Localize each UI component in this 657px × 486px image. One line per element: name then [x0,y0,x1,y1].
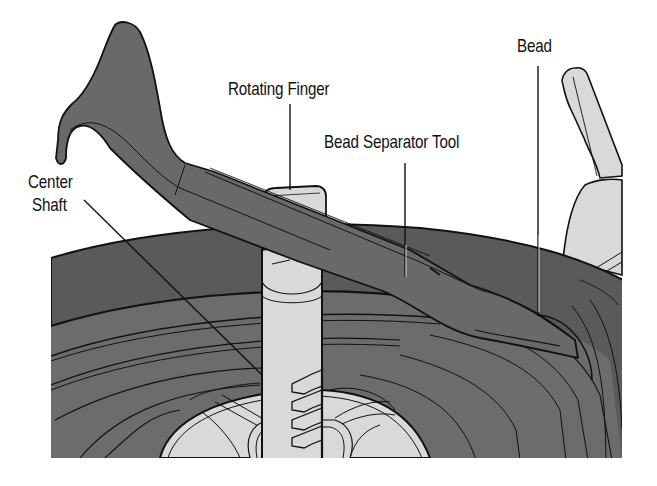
label-center-shaft-line2: Shaft [28,193,73,216]
label-bead: Bead [517,35,552,57]
label-bead-separator-tool: Bead Separator Tool [324,131,459,153]
label-center-shaft-line1: Center [28,170,73,193]
label-center-shaft: Center Shaft [28,170,73,216]
tire-changer-illustration [0,0,657,486]
label-rotating-finger: Rotating Finger [228,78,330,100]
machine-arm [562,68,622,285]
